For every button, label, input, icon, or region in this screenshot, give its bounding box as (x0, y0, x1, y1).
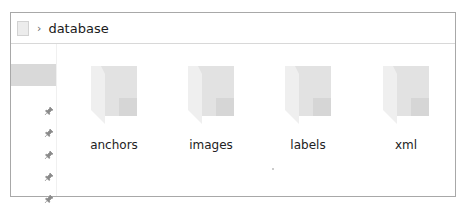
folder-location-icon (17, 21, 29, 36)
folder-label: images (171, 138, 251, 152)
navigation-pane (11, 44, 57, 196)
file-explorer-window: › database anchors images (10, 12, 456, 197)
folder-label: anchors (74, 138, 154, 152)
pin-icon (44, 172, 54, 182)
folder-icon (89, 64, 139, 126)
folder-item-images[interactable]: images (171, 64, 251, 152)
pin-icon (44, 128, 54, 138)
breadcrumb-database[interactable]: database (48, 21, 108, 36)
folder-item-xml[interactable]: xml (366, 64, 446, 152)
artifact-dot (272, 168, 274, 170)
folder-item-labels[interactable]: labels (268, 64, 348, 152)
folder-icon (381, 64, 431, 126)
folder-item-anchors[interactable]: anchors (74, 64, 154, 152)
folder-icon (283, 64, 333, 126)
folder-label: xml (366, 138, 446, 152)
breadcrumb-separator-icon[interactable]: › (37, 22, 41, 35)
pin-icon (44, 150, 54, 160)
nav-item-selected[interactable] (11, 64, 56, 86)
pin-icon (44, 106, 54, 116)
pin-icon (44, 194, 54, 204)
folder-icon (186, 64, 236, 126)
folder-label: labels (268, 138, 348, 152)
address-bar[interactable]: › database (11, 13, 455, 44)
content-pane: anchors images labels xml (57, 44, 455, 196)
